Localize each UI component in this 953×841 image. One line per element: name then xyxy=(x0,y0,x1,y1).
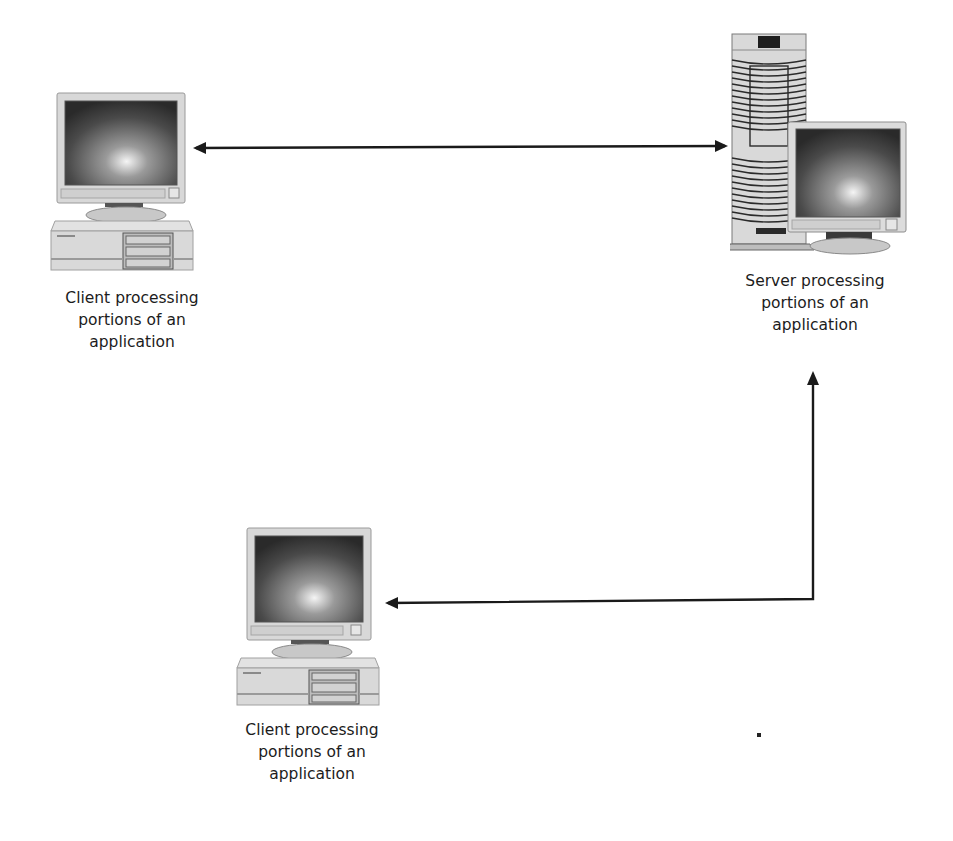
client-2-computer xyxy=(233,526,383,706)
server-computer xyxy=(730,32,910,258)
arrow-client1-server xyxy=(193,140,728,154)
server-tower-icon xyxy=(730,32,910,258)
client-2-label: Client processing portions of an applica… xyxy=(208,719,416,785)
diagram-canvas: Client processing portions of an applica… xyxy=(0,0,953,841)
arrow-server-client2 xyxy=(385,371,819,609)
client-1-computer xyxy=(47,91,197,271)
stray-dot xyxy=(757,733,761,737)
desktop-computer-icon xyxy=(233,526,383,706)
client-1-label: Client processing portions of an applica… xyxy=(28,287,236,353)
server-label: Server processing portions of an applica… xyxy=(720,270,910,336)
desktop-computer-icon xyxy=(47,91,197,271)
